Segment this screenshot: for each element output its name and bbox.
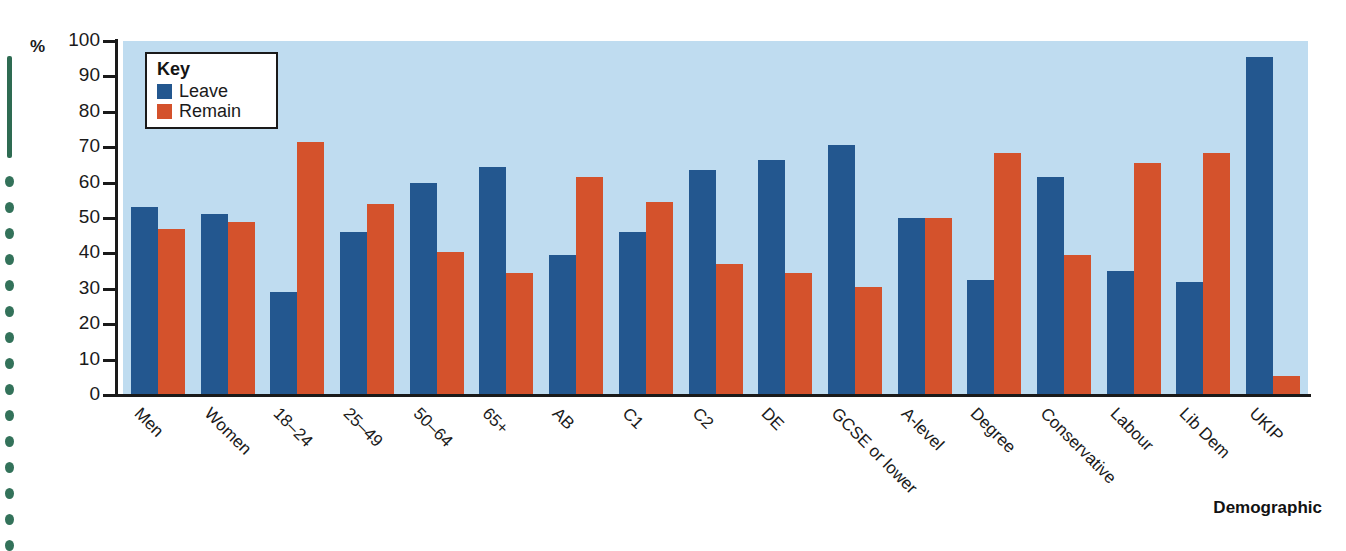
y-axis-tick: [103, 323, 117, 326]
bar-group: [270, 41, 324, 395]
bar-leave: [689, 170, 716, 395]
plot-area: [123, 41, 1308, 395]
bar-group: [549, 41, 603, 395]
legend-title: Key: [157, 59, 268, 80]
bar-group: [619, 41, 673, 395]
chart-legend: Key Leave Remain: [145, 52, 278, 129]
x-axis-tick-label-text: AB: [548, 404, 578, 434]
bar-group: [1246, 41, 1300, 395]
bar-leave: [1176, 282, 1203, 395]
x-axis-tick-label-text: Degree: [966, 404, 1020, 458]
legend-swatch-remain: [157, 104, 172, 119]
x-axis-tick-label-text: DE: [757, 404, 788, 435]
bar-leave: [1037, 177, 1064, 395]
bar-group: [758, 41, 812, 395]
x-axis-tick-label-text: C2: [687, 404, 717, 434]
bar-remain: [1134, 163, 1161, 395]
bar-leave: [410, 183, 437, 395]
bar-leave: [201, 214, 228, 395]
bar-leave: [131, 207, 158, 395]
y-axis-tick: [103, 217, 117, 220]
bar-remain: [228, 222, 255, 395]
bar-remain: [297, 142, 324, 395]
x-axis-tick-label-text: C1: [618, 404, 648, 434]
y-axis-unit-label: %: [30, 37, 45, 57]
x-axis-tick-label-text: Men: [130, 404, 168, 442]
bar-leave: [967, 280, 994, 395]
y-axis-tick-label: 10: [44, 348, 100, 370]
bar-remain: [1273, 376, 1300, 395]
x-axis-line: [115, 394, 1311, 397]
x-axis-tick-label-text: 18–24: [269, 404, 317, 452]
bar-group: [340, 41, 394, 395]
bar-group: [1037, 41, 1091, 395]
bar-group: [479, 41, 533, 395]
bar-leave: [898, 218, 925, 395]
y-axis-tick-label: 30: [44, 277, 100, 299]
bar-remain: [506, 273, 533, 395]
x-axis-tick-label-text: Labour: [1106, 404, 1158, 456]
legend-item-remain: Remain: [157, 102, 268, 120]
y-axis-tick-label: 40: [44, 241, 100, 263]
y-axis-tick-label: 0: [44, 383, 100, 405]
bar-remain: [855, 287, 882, 395]
y-axis-tick: [103, 252, 117, 255]
y-axis-tick: [103, 75, 117, 78]
bar-remain: [437, 252, 464, 395]
bar-leave: [758, 160, 785, 395]
bar-leave: [828, 145, 855, 395]
y-axis-tick: [103, 146, 117, 149]
bar-leave: [619, 232, 646, 395]
y-axis-tick: [103, 111, 117, 114]
bar-group: [410, 41, 464, 395]
x-axis-tick-label-text: 65+: [478, 404, 513, 439]
y-axis-tick-label: 50: [44, 206, 100, 228]
bar-group: [689, 41, 743, 395]
y-axis-tick: [103, 40, 117, 43]
y-axis-tick: [103, 182, 117, 185]
bar-remain: [994, 153, 1021, 395]
bar-remain: [576, 177, 603, 395]
bar-remain: [1203, 153, 1230, 395]
y-axis-tick-label: 60: [44, 171, 100, 193]
bar-leave: [270, 292, 297, 395]
bar-remain: [925, 218, 952, 395]
x-axis-title: Demographic: [1213, 498, 1322, 518]
bar-remain: [646, 202, 673, 395]
bar-leave: [479, 167, 506, 395]
bar-remain: [158, 229, 185, 395]
bar-group: [898, 41, 952, 395]
legend-label-remain: Remain: [179, 102, 241, 120]
y-axis-tick: [103, 288, 117, 291]
y-axis-tick: [103, 359, 117, 362]
bar-remain: [716, 264, 743, 395]
y-axis-tick-label: 70: [44, 135, 100, 157]
bar-group: [828, 41, 882, 395]
y-axis-tick-label: 80: [44, 100, 100, 122]
bar-leave: [549, 255, 576, 395]
bar-remain: [367, 204, 394, 395]
legend-label-leave: Leave: [179, 82, 228, 100]
bar-leave: [1246, 57, 1273, 395]
bar-group: [1107, 41, 1161, 395]
bar-leave: [1107, 271, 1134, 395]
bar-group: [1176, 41, 1230, 395]
y-axis-tick: [103, 394, 117, 397]
bar-remain: [1064, 255, 1091, 395]
bar-remain: [785, 273, 812, 395]
x-axis-tick-label-text: 25–49: [339, 404, 387, 452]
x-axis-tick-label-text: UKIP: [1245, 404, 1287, 446]
y-axis-tick-label: 100: [44, 29, 100, 51]
x-axis-tick-label-text: 50–64: [409, 404, 457, 452]
y-axis-tick-label: 90: [44, 64, 100, 86]
legend-item-leave: Leave: [157, 82, 268, 100]
bar-leave: [340, 232, 367, 395]
legend-swatch-leave: [157, 84, 172, 99]
x-axis-tick-label-text: Women: [199, 404, 254, 459]
x-axis-tick-label-text: A-level: [896, 404, 947, 455]
y-axis-tick-label: 20: [44, 312, 100, 334]
x-axis-tick-label-text: Lib Dem: [1175, 404, 1234, 463]
bar-group: [967, 41, 1021, 395]
